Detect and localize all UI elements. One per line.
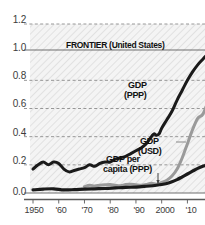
x-tick-label-2000: 2000 — [149, 205, 181, 215]
y-tick-label-6: 0.2 — [0, 155, 26, 166]
y-tick-label-4: 0.6 — [0, 98, 26, 109]
frontier-label: FRONTIER (United States) — [66, 40, 165, 50]
chart-canvas — [0, 0, 205, 225]
gdp-usd-label-line2: (USD) — [138, 146, 162, 156]
gdp-convergence-chart: 1.2 1.0 0.8 0.6 0.4 0.2 0.0 1950 '60 '70… — [0, 0, 205, 225]
x-tick-label-1960: '60 — [48, 205, 74, 215]
x-tick-label-1950: 1950 — [19, 205, 49, 215]
gdp-per-capita-label-line2: capita (PPP) — [103, 164, 152, 174]
x-tick-label-1980: '80 — [100, 205, 126, 215]
y-tick-label-5: 0.4 — [0, 127, 26, 138]
x-axis-ticks — [33, 200, 187, 204]
x-tick-label-1970: '70 — [74, 205, 100, 215]
y-tick-label-1: 1.2 — [0, 14, 26, 25]
gdp-per-capita-label-line1: GDP per — [106, 154, 140, 164]
y-tick-label-7: 0.0 — [0, 186, 26, 197]
gdp-usd-label-line1: GDP — [140, 136, 159, 146]
y-tick-label-2: 1.0 — [0, 42, 26, 53]
gdp-ppp-label-line2: (PPP) — [124, 90, 147, 100]
x-tick-label-2010: '10 — [179, 205, 203, 215]
gdp-ppp-label-line1: GDP — [128, 80, 147, 90]
y-tick-label-3: 0.8 — [0, 70, 26, 81]
